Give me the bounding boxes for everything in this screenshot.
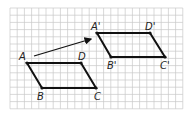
- vertex-point: [40, 86, 43, 89]
- vertex-label: D: [78, 51, 86, 62]
- vertex-label: D': [145, 21, 155, 32]
- vertex-label: B: [37, 91, 44, 102]
- vertex-point: [25, 61, 28, 64]
- vertex-label: A: [18, 51, 26, 62]
- vertex-label: B': [107, 60, 117, 71]
- translation-diagram: ABCDA'B'C'D': [0, 0, 188, 117]
- vertex-point: [94, 86, 97, 89]
- vertex-point: [109, 55, 112, 58]
- vertex-label: C': [160, 60, 170, 71]
- vertex-label: C: [94, 91, 101, 102]
- vertex-point: [163, 55, 166, 58]
- vertex-label: A': [90, 21, 101, 32]
- parallelogram-abcd: [27, 63, 96, 88]
